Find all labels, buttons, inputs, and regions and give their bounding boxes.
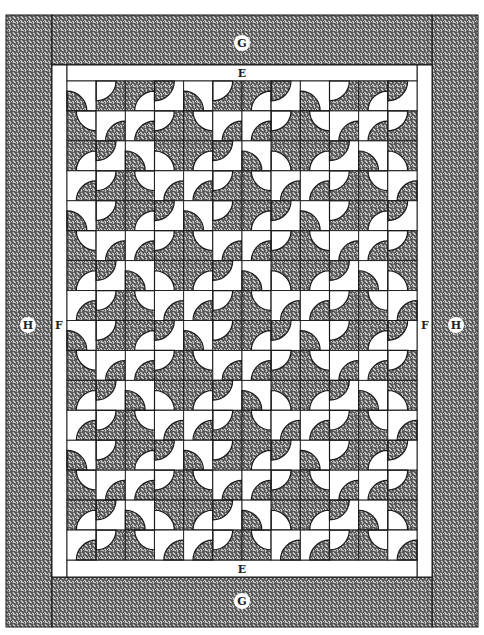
quilt-block-unit bbox=[213, 321, 242, 351]
label-top-e: E bbox=[238, 67, 246, 80]
quilt-block-unit bbox=[213, 81, 242, 111]
svg-text:E: E bbox=[238, 67, 246, 80]
quilt-block-unit bbox=[242, 201, 271, 231]
svg-text:H: H bbox=[23, 319, 33, 332]
quilt-block-unit bbox=[96, 500, 125, 530]
quilt-block-unit bbox=[300, 410, 329, 440]
quilt-block-unit bbox=[330, 500, 359, 530]
quilt-block-unit bbox=[125, 231, 154, 261]
quilt-block-unit bbox=[67, 81, 96, 111]
quilt-block-unit bbox=[155, 380, 184, 410]
quilt-block-unit bbox=[388, 530, 417, 560]
quilt-block-unit bbox=[184, 291, 213, 321]
quilt-block-unit bbox=[67, 350, 96, 380]
quilt-block-unit bbox=[155, 81, 184, 111]
quilt-block-unit bbox=[242, 380, 271, 410]
quilt-block-unit bbox=[125, 171, 154, 201]
quilt-block-unit bbox=[388, 470, 417, 500]
quilt-block-unit bbox=[125, 470, 154, 500]
quilt-block-unit bbox=[388, 141, 417, 171]
quilt-block-unit bbox=[155, 261, 184, 291]
label-right-h: H bbox=[448, 317, 464, 333]
quilt-block-unit bbox=[330, 530, 359, 560]
quilt-block-unit bbox=[67, 380, 96, 410]
quilt-block-unit bbox=[271, 410, 300, 440]
quilt-block-unit bbox=[184, 440, 213, 470]
quilt-block-unit bbox=[359, 350, 388, 380]
quilt-block-unit bbox=[242, 141, 271, 171]
quilt-block-unit bbox=[359, 470, 388, 500]
quilt-block-unit bbox=[271, 500, 300, 530]
quilt-block-unit bbox=[96, 201, 125, 231]
quilt-block-unit bbox=[213, 410, 242, 440]
quilt-block-unit bbox=[67, 440, 96, 470]
quilt-block-unit bbox=[388, 261, 417, 291]
quilt-block-unit bbox=[96, 410, 125, 440]
quilt-block-unit bbox=[271, 111, 300, 141]
quilt-block-unit bbox=[300, 81, 329, 111]
quilt-block-unit bbox=[67, 111, 96, 141]
quilt-block-unit bbox=[330, 81, 359, 111]
quilt-block-unit bbox=[213, 500, 242, 530]
svg-text:G: G bbox=[237, 37, 246, 50]
quilt-block-unit bbox=[67, 141, 96, 171]
quilt-block-unit bbox=[96, 141, 125, 171]
quilt-block-unit bbox=[388, 201, 417, 231]
quilt-block-unit bbox=[184, 81, 213, 111]
quilt-block-unit bbox=[271, 321, 300, 351]
quilt-block-unit bbox=[330, 350, 359, 380]
quilt-block-unit bbox=[155, 291, 184, 321]
quilt-block-unit bbox=[155, 321, 184, 351]
quilt-block-unit bbox=[271, 231, 300, 261]
label-bottom-e: E bbox=[238, 563, 246, 576]
quilt-block-unit bbox=[388, 231, 417, 261]
label-left-f: F bbox=[55, 319, 63, 332]
quilt-block-unit bbox=[213, 440, 242, 470]
quilt-block-unit bbox=[184, 171, 213, 201]
quilt-block-unit bbox=[155, 530, 184, 560]
quilt-block-unit bbox=[242, 440, 271, 470]
quilt-block-unit bbox=[359, 141, 388, 171]
quilt-block-unit bbox=[300, 380, 329, 410]
quilt-block-unit bbox=[388, 440, 417, 470]
quilt-block-unit bbox=[125, 530, 154, 560]
quilt-block-unit bbox=[330, 231, 359, 261]
svg-text:F: F bbox=[421, 319, 429, 332]
quilt-block-unit bbox=[330, 171, 359, 201]
quilt-block-unit bbox=[359, 500, 388, 530]
quilt-block-unit bbox=[67, 261, 96, 291]
quilt-block-unit bbox=[330, 380, 359, 410]
quilt-block-unit bbox=[67, 201, 96, 231]
quilt-block-unit bbox=[155, 350, 184, 380]
quilt-block-unit bbox=[155, 231, 184, 261]
quilt-block-unit bbox=[213, 470, 242, 500]
quilt-block-unit bbox=[96, 470, 125, 500]
quilt-block-unit bbox=[213, 291, 242, 321]
quilt-block-unit bbox=[155, 470, 184, 500]
quilt-block-unit bbox=[388, 380, 417, 410]
quilt-block-unit bbox=[359, 111, 388, 141]
quilt-block-unit bbox=[242, 410, 271, 440]
quilt-block-unit bbox=[330, 291, 359, 321]
quilt-block-unit bbox=[96, 291, 125, 321]
quilt-block-unit bbox=[96, 171, 125, 201]
quilt-block-unit bbox=[184, 261, 213, 291]
quilt-block-unit bbox=[213, 141, 242, 171]
quilt-block-unit bbox=[67, 231, 96, 261]
quilt-block-unit bbox=[330, 440, 359, 470]
quilt-block-unit bbox=[300, 231, 329, 261]
quilt-block-unit bbox=[125, 321, 154, 351]
quilt-block-unit bbox=[300, 261, 329, 291]
quilt-block-unit bbox=[271, 530, 300, 560]
quilt-block-unit bbox=[125, 141, 154, 171]
quilt-block-unit bbox=[67, 530, 96, 560]
quilt-block-unit bbox=[359, 171, 388, 201]
quilt-block-unit bbox=[213, 201, 242, 231]
quilt-block-unit bbox=[125, 261, 154, 291]
quilt-block-unit bbox=[388, 410, 417, 440]
quilt-block-unit bbox=[155, 500, 184, 530]
quilt-block-unit bbox=[271, 470, 300, 500]
quilt-block-unit bbox=[300, 470, 329, 500]
quilt-diagram: G G E E F F H H bbox=[0, 0, 484, 635]
block-grid bbox=[67, 81, 417, 560]
